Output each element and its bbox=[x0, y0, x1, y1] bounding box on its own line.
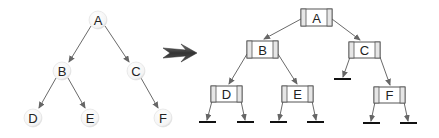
left-node-f-label: F bbox=[159, 111, 167, 126]
right-node-a: A bbox=[301, 9, 332, 26]
left-node-b-label: B bbox=[58, 64, 67, 79]
edge-c-f bbox=[141, 78, 158, 108]
left-node-b: B bbox=[53, 62, 71, 80]
link-b-d bbox=[229, 54, 247, 84]
link-c-f bbox=[380, 57, 390, 85]
right-node-f: F bbox=[374, 87, 405, 103]
tree-diagram: A B C D E F bbox=[0, 0, 439, 138]
link-b-e bbox=[278, 54, 297, 84]
left-node-a: A bbox=[89, 11, 107, 29]
edge-b-d bbox=[39, 78, 56, 108]
edge-a-b bbox=[69, 26, 91, 62]
link-f-left-null bbox=[371, 102, 375, 121]
right-node-c: C bbox=[349, 42, 380, 58]
right-tree-edges bbox=[207, 19, 408, 121]
right-node-b-label: B bbox=[258, 43, 267, 58]
link-e-right-null bbox=[312, 101, 316, 120]
right-node-f-label: F bbox=[386, 88, 394, 103]
left-node-d: D bbox=[24, 109, 42, 127]
left-node-f: F bbox=[154, 109, 172, 127]
left-node-a-label: A bbox=[94, 13, 103, 28]
link-a-b bbox=[264, 19, 301, 39]
left-node-d-label: D bbox=[28, 111, 37, 126]
link-d-left-null bbox=[207, 101, 212, 120]
link-a-c bbox=[332, 19, 360, 40]
link-f-right-null bbox=[404, 102, 408, 121]
left-node-c: C bbox=[127, 62, 145, 80]
right-arrow-icon bbox=[163, 44, 197, 62]
edge-b-e bbox=[68, 78, 85, 108]
right-tree: A B C D E F bbox=[199, 9, 417, 123]
left-node-e: E bbox=[81, 109, 99, 127]
link-d-right-null bbox=[241, 101, 245, 120]
right-node-d-label: D bbox=[222, 87, 231, 102]
right-node-b: B bbox=[247, 41, 278, 58]
left-node-c-label: C bbox=[131, 64, 140, 79]
right-node-a-label: A bbox=[312, 11, 321, 26]
link-e-left-null bbox=[279, 101, 283, 120]
left-node-e-label: E bbox=[86, 111, 95, 126]
link-c-null bbox=[343, 57, 350, 77]
right-node-e: E bbox=[282, 86, 313, 102]
right-node-d: D bbox=[211, 86, 242, 102]
right-node-c-label: C bbox=[360, 43, 369, 58]
edge-a-c bbox=[105, 26, 129, 62]
right-node-e-label: E bbox=[293, 87, 302, 102]
left-tree: A B C D E F bbox=[24, 11, 172, 127]
